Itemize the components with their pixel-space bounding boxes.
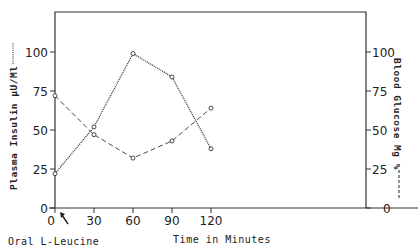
x-tick-label: 60 — [125, 214, 140, 228]
plot-frame — [49, 12, 418, 208]
arrow-icon — [60, 212, 68, 224]
right-y-axis-title: Blood Glucose Mg % — [392, 58, 403, 170]
data-point — [131, 52, 135, 56]
data-point — [53, 94, 57, 98]
data-point — [209, 106, 213, 110]
x-tick-label: 120 — [200, 214, 223, 228]
left-tick-label: 75 — [33, 85, 48, 99]
data-point — [209, 147, 213, 151]
right-tick-label: 0 — [383, 202, 391, 216]
left-tick-label: 25 — [33, 163, 48, 177]
data-point — [92, 125, 96, 129]
x-axis-title: Time in Minutes — [173, 234, 271, 245]
x-tick-label: 0 — [47, 214, 55, 228]
right-y-axis: 0255075100 — [366, 46, 395, 216]
x-tick-label: 90 — [164, 214, 179, 228]
data-point — [131, 156, 135, 160]
right-tick-label: 100 — [372, 46, 395, 60]
oral-leucine-annotation: Oral L-Leucine — [8, 236, 99, 247]
left-tick-label: 100 — [25, 46, 48, 60]
left-y-axis-title: Plasma Insulin µU/Ml — [8, 66, 19, 190]
series-layer — [53, 52, 213, 176]
insulin-glucose-chart: 0255075100 0255075100 0306090120 Time in… — [0, 0, 418, 249]
x-tick-label: 30 — [86, 214, 101, 228]
right-tick-label: 25 — [372, 163, 387, 177]
data-point — [170, 75, 174, 79]
data-point — [170, 139, 174, 143]
left-y-axis: 0255075100 — [25, 46, 55, 216]
right-tick-label: 75 — [372, 85, 387, 99]
x-axis: 0306090120 — [47, 208, 222, 228]
right-tick-label: 50 — [372, 124, 387, 138]
glucose-series — [53, 94, 213, 160]
data-point — [92, 133, 96, 137]
left-tick-label: 50 — [33, 124, 48, 138]
data-point — [53, 172, 57, 176]
